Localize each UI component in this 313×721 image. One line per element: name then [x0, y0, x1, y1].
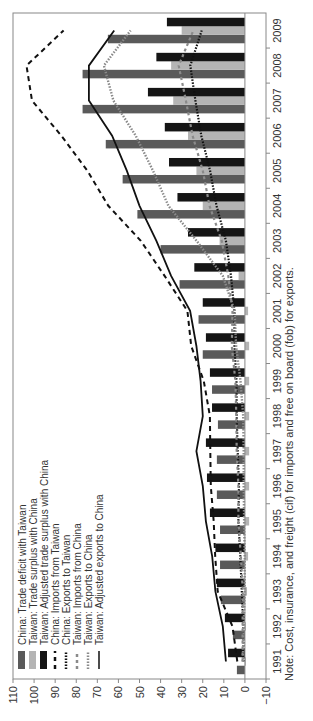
bar [199, 315, 245, 324]
legend-swatch [40, 651, 47, 669]
x-tick-label: 1996 [271, 474, 283, 498]
x-tick-label: 2009 [271, 18, 283, 42]
trade-chart: −100102030405060708090100110199119921993… [0, 0, 313, 721]
bar [245, 342, 249, 351]
y-tick-label: 80 [70, 686, 82, 698]
x-tick-label: 1991 [271, 649, 283, 673]
chart-rotated-container: −100102030405060708090100110199119921993… [0, 0, 313, 721]
x-tick-label: 1997 [271, 439, 283, 463]
x-tick-label: 2005 [271, 158, 283, 182]
bar [83, 70, 245, 79]
bar [217, 455, 245, 464]
x-tick-label: 2007 [271, 88, 283, 112]
bar [245, 517, 249, 526]
bar [165, 123, 245, 132]
bar [188, 131, 245, 140]
legend-label: China: Exports to Taiwan [61, 535, 72, 645]
bar [220, 237, 245, 246]
y-tick-label: 10 [218, 686, 230, 698]
x-tick-label: 2002 [271, 264, 283, 288]
bar [245, 377, 249, 386]
y-tick-label: 90 [49, 686, 61, 698]
x-tick-label: 2003 [271, 229, 283, 253]
legend: China: Trade deficit with TaiwanTaiwan: … [17, 459, 105, 669]
bar [83, 105, 245, 114]
bar [221, 596, 245, 605]
x-tick-label: 2004 [271, 194, 283, 218]
legend-label: Taiwan: Trade surplus with China [28, 498, 39, 645]
bar [206, 438, 245, 447]
x-tick-label: 1993 [271, 579, 283, 603]
x-tick-label: 2000 [271, 334, 283, 358]
x-tick-label: 1999 [271, 369, 283, 393]
chart-note: Note: Cost, insurance, and freight (cif)… [283, 267, 295, 681]
bar [106, 140, 245, 149]
bar [220, 526, 245, 535]
x-tick-label: 1995 [271, 509, 283, 533]
bar [218, 420, 245, 429]
bar [245, 447, 249, 456]
y-tick-label: 20 [197, 686, 209, 698]
legend-label: Taiwan: Exports to China [83, 534, 94, 645]
y-tick-label: −10 [260, 686, 272, 705]
x-tick-label: 2001 [271, 299, 283, 323]
x-tick-label: 2008 [271, 53, 283, 77]
bar [137, 210, 245, 219]
bar [217, 490, 245, 499]
y-tick-label: 30 [176, 686, 188, 698]
y-tick-label: 40 [155, 686, 167, 698]
bar [180, 280, 245, 289]
bar [167, 18, 245, 27]
y-tick-label: 50 [134, 686, 146, 698]
bar [171, 61, 245, 70]
x-tick-label: 1994 [271, 544, 283, 568]
bar [239, 272, 245, 281]
bar [148, 88, 245, 97]
legend-swatch [18, 651, 25, 669]
x-tick-label: 1992 [271, 614, 283, 638]
legend-swatch [29, 651, 36, 669]
legend-label: China: Trade deficit with Taiwan [17, 505, 28, 645]
bar [108, 35, 245, 44]
bar [177, 193, 244, 202]
x-tick-label: 2006 [271, 123, 283, 147]
y-tick-label: 60 [112, 686, 124, 698]
bar [203, 298, 245, 307]
bar [210, 509, 245, 518]
bar [206, 333, 245, 342]
y-tick-label: 110 [7, 686, 19, 704]
bar [245, 412, 249, 421]
bar [237, 666, 245, 675]
bar [188, 228, 245, 237]
legend-label: Taiwan: Adjusted trade surplus with Chin… [39, 459, 50, 645]
legend-label: Taiwan: Adjusted exports to China [94, 494, 105, 645]
y-tick-label: 0 [239, 686, 251, 692]
bar [212, 403, 245, 412]
bar [156, 53, 245, 62]
x-tick-label: 1998 [271, 404, 283, 428]
bar [173, 96, 245, 105]
bar [245, 482, 249, 491]
legend-label: China: Imports from Taiwan [50, 523, 61, 645]
y-tick-label: 100 [28, 686, 40, 704]
bar [123, 175, 245, 184]
y-tick-label: 70 [91, 686, 103, 698]
bar [212, 385, 245, 394]
legend-label: Taiwan: Imports from China [72, 523, 83, 645]
